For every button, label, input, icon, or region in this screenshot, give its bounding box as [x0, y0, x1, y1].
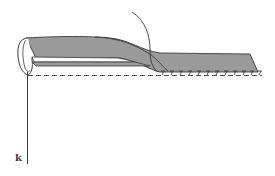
thread-end-label: k: [15, 152, 22, 163]
lower-fabric-layer: [32, 62, 150, 66]
upper-fabric-layer: [26, 37, 258, 73]
hem-diagram: [0, 0, 275, 176]
